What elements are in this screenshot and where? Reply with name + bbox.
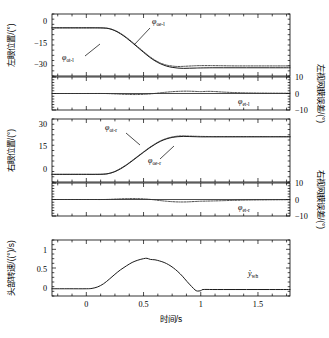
y-tick-label: −10 — [295, 212, 308, 221]
annotation-subscript: ot-l — [66, 57, 74, 63]
x-tick-label: 0.5 — [138, 300, 148, 309]
annotation-leader-line — [126, 133, 140, 145]
y-tick-label: 0 — [43, 165, 47, 174]
series-curve — [52, 136, 290, 174]
y-tick-label: −15 — [34, 39, 47, 48]
panel-frame — [52, 119, 290, 182]
y-axis-title-left-retinal-error: 左视网膜误差/(°) — [316, 64, 326, 123]
annotation-leader-line — [160, 146, 174, 159]
annotation-phi-ot-l: φot-l — [62, 44, 100, 63]
y-axis-title-right-retinal-error: 右视网膜误差/(°) — [316, 170, 326, 229]
annotation-label: φoe-l — [152, 17, 165, 27]
annotation-phi-oe-l: φoe-l — [134, 17, 165, 45]
annotation-phi-et-r: φet-r — [238, 203, 250, 213]
y-tick-label: 0 — [295, 196, 299, 205]
annotation-subscript: wh — [252, 273, 259, 279]
annotation-ydot-wh: ỳwh — [247, 269, 258, 279]
panel-right-eye-position: 30150 — [39, 119, 290, 182]
panel-frame — [52, 240, 290, 296]
annotation-phi-ot-r: φot-r — [105, 123, 140, 145]
annotation-leader-line — [134, 28, 150, 45]
annotation-label: φet-l — [238, 97, 250, 107]
annotation-subscript: oe-r — [152, 160, 161, 166]
annotation-subscript: oe-l — [156, 21, 165, 27]
panel-right-retinal-error: 100−10 — [52, 179, 308, 221]
series-curve — [52, 199, 290, 202]
annotation-subscript: ot-r — [109, 127, 117, 133]
y-tick-label: 0.5 — [37, 265, 47, 274]
figure-container: 0−15−30100−1030150100−1010.5000.511.5时间/… — [0, 0, 329, 338]
y-tick-label: 15 — [39, 142, 47, 151]
y-tick-label: −30 — [34, 60, 47, 69]
x-tick-label: 1 — [199, 300, 203, 309]
y-tick-label: 30 — [39, 120, 47, 129]
annotation-phi-et-l: φet-l — [238, 97, 250, 107]
y-tick-label: 0 — [43, 17, 47, 26]
y-tick-label: 1 — [43, 246, 47, 255]
series-curve — [52, 28, 290, 67]
x-tick-label: 1.5 — [253, 300, 263, 309]
annotation-subscript: et-r — [242, 207, 250, 213]
y-axis-title-head-velocity: 头部转速/((°)/s) — [6, 240, 16, 296]
annotation-label: φoe-r — [148, 156, 161, 166]
annotation-label: φet-r — [238, 203, 250, 213]
x-axis-title: 时间/s — [160, 314, 183, 324]
annotation-phi-oe-r: φoe-r — [148, 146, 174, 166]
x-tick-label: 0 — [84, 300, 88, 309]
panel-head-velocity: 10.50 — [37, 240, 290, 296]
y-tick-label: 10 — [295, 73, 303, 82]
panel-left-retinal-error: 100−10 — [52, 73, 308, 115]
y-tick-label: 0 — [295, 90, 299, 99]
y-axis-title-right-eye-position: 右眼位置/(°) — [6, 129, 16, 172]
y-tick-label: 0 — [43, 284, 47, 293]
y-tick-label: −10 — [295, 106, 308, 115]
series-curve — [52, 28, 290, 69]
multi-panel-eye-tracking-chart: 0−15−30100−1030150100−1010.5000.511.5时间/… — [0, 0, 329, 338]
series-curve — [52, 91, 290, 94]
annotation-subscript: et-l — [242, 101, 250, 107]
annotation-leader-line — [85, 44, 100, 56]
series-curve — [52, 136, 290, 174]
annotation-label: φot-l — [62, 53, 74, 63]
y-tick-label: 10 — [295, 179, 303, 188]
annotation-label: φot-r — [105, 123, 117, 133]
y-axis-title-left-eye-position: 左眼位置/(°) — [6, 23, 16, 66]
annotation-label: ỳwh — [247, 269, 258, 279]
